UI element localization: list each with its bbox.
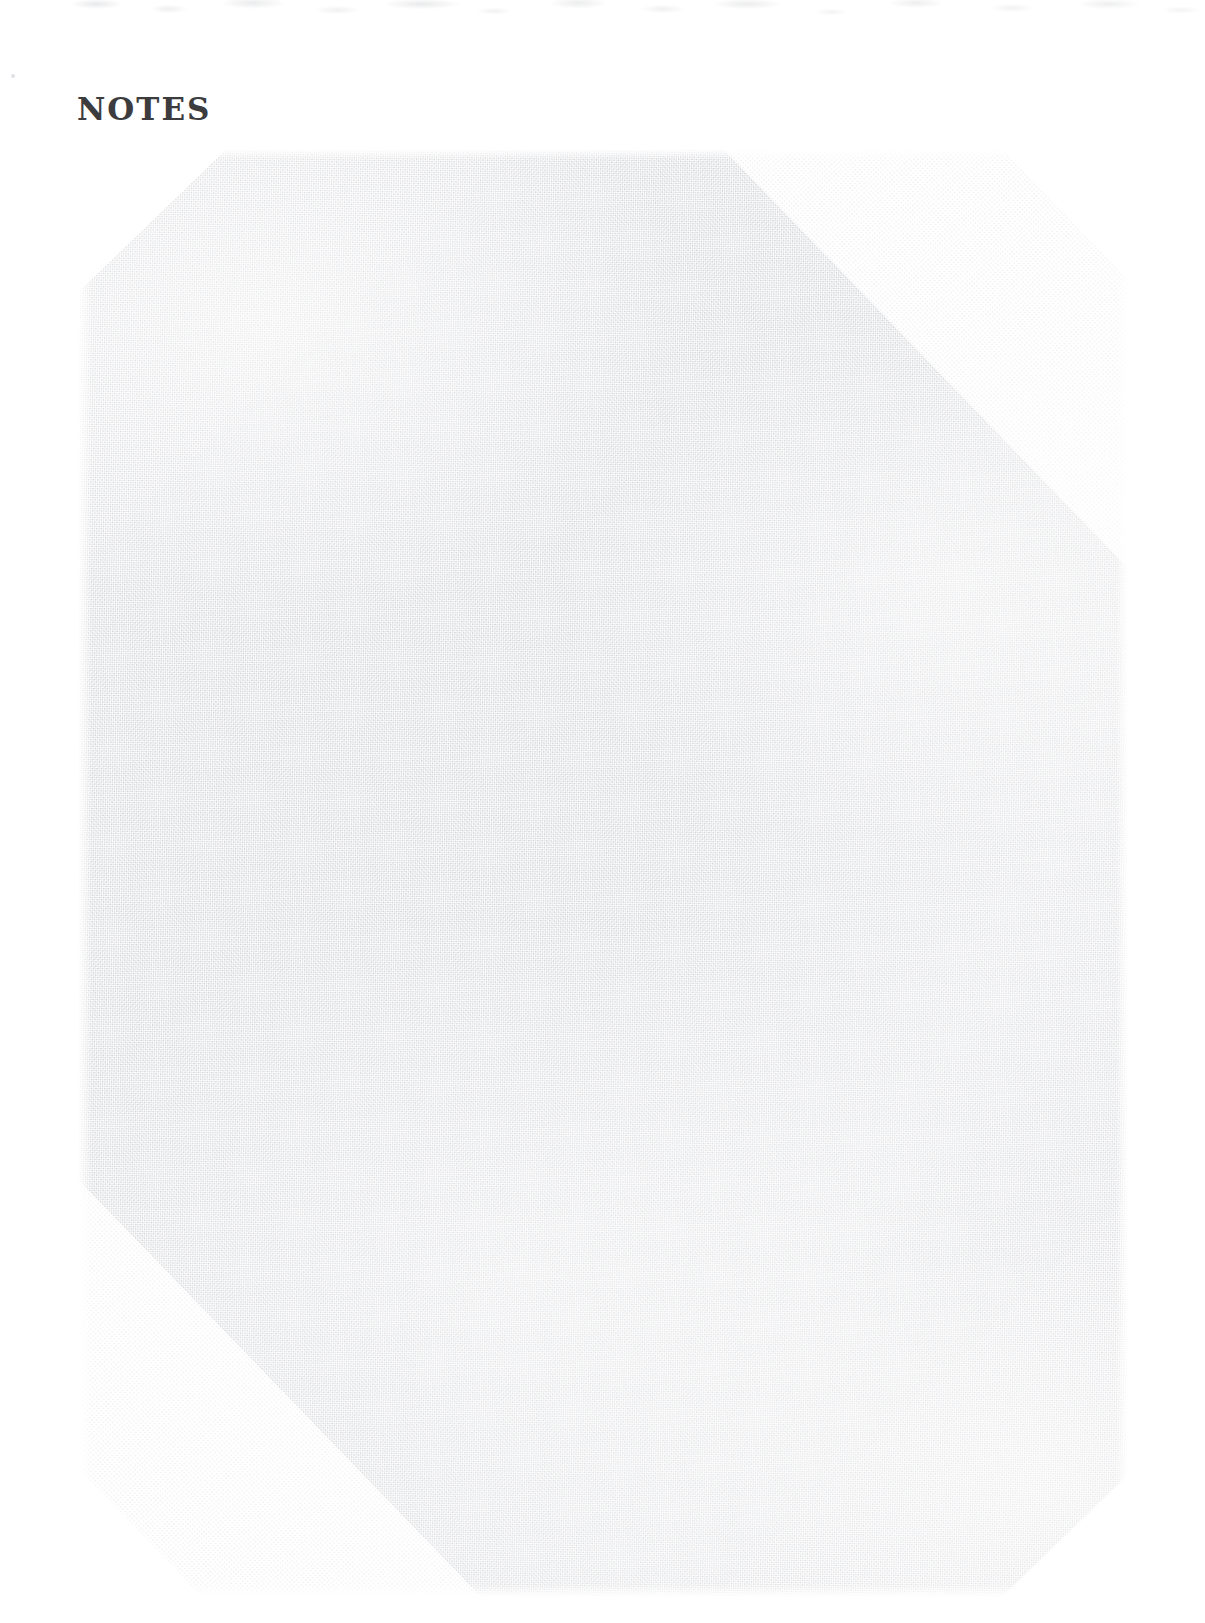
scan-artifact-top — [0, 0, 1205, 22]
note-writing-area[interactable] — [78, 149, 1128, 1597]
page-title: NOTES — [77, 93, 211, 125]
ink-speck-artifact — [11, 74, 15, 78]
notes-page: NOTES — [0, 0, 1205, 1623]
